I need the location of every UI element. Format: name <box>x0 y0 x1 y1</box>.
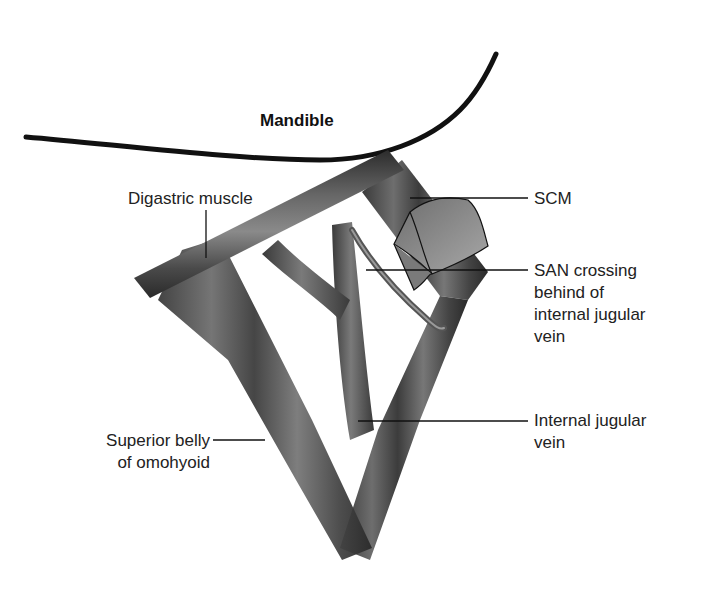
digastric-muscle <box>134 150 404 298</box>
diagram-stage: Mandible Digastric muscle SCM SAN crossi… <box>0 0 703 614</box>
mandible-outline <box>26 54 496 160</box>
label-omohyoid: Superior belly of omohyoid <box>70 430 210 474</box>
label-mandible: Mandible <box>260 110 334 132</box>
label-san: SAN crossing behind of internal jugular … <box>534 260 646 348</box>
label-digastric-muscle: Digastric muscle <box>128 188 253 210</box>
label-scm: SCM <box>534 188 572 210</box>
label-internal-jugular-vein: Internal jugular vein <box>534 410 646 454</box>
